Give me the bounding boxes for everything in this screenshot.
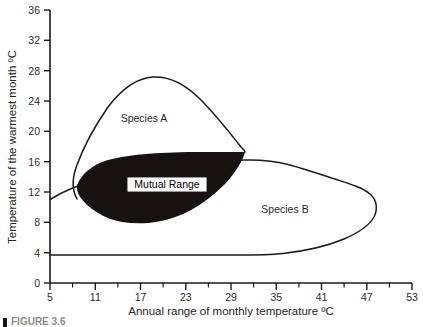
species-a-label: Species A — [121, 112, 168, 124]
y-tick-label: 4 — [34, 247, 40, 259]
y-tick-label: 20 — [28, 125, 40, 137]
figure-container: 0 4 8 12 16 20 24 28 32 36 5 11 17 23 29… — [0, 0, 423, 327]
y-tick-label: 0 — [34, 277, 40, 289]
x-tick-label: 53 — [406, 291, 418, 303]
x-tick-label: 41 — [316, 291, 328, 303]
x-tick-labels: 5 11 17 23 29 35 41 47 53 — [47, 291, 418, 303]
mutual-range-callout: Mutual Range — [127, 177, 207, 192]
x-tick-label: 5 — [47, 291, 53, 303]
figure-caption-text: FIGURE 3.6 — [11, 316, 65, 327]
x-tick-label: 47 — [361, 291, 373, 303]
species-b-label: Species B — [261, 203, 308, 215]
y-tick-label: 24 — [28, 95, 40, 107]
y-axis-title: Temperature of the warmest month ºC — [6, 50, 18, 244]
figure-caption-strip: FIGURE 3.6 — [0, 316, 423, 327]
y-tick-label: 28 — [28, 65, 40, 77]
y-tick-label: 32 — [28, 34, 40, 46]
y-tick-labels: 0 4 8 12 16 20 24 28 32 36 — [28, 4, 40, 289]
y-tick-label: 12 — [28, 186, 40, 198]
x-tick-label: 23 — [180, 291, 192, 303]
x-axis — [50, 283, 412, 290]
x-tick-label: 35 — [270, 291, 282, 303]
y-tick-label: 8 — [34, 216, 40, 228]
y-tick-label: 16 — [28, 156, 40, 168]
x-tick-label: 17 — [135, 291, 147, 303]
y-tick-label: 36 — [28, 4, 40, 16]
x-tick-label: 11 — [90, 291, 101, 303]
caption-marker-icon — [3, 318, 7, 327]
plot-background — [50, 10, 412, 283]
mutual-range-label: Mutual Range — [134, 178, 200, 190]
chart-canvas: 0 4 8 12 16 20 24 28 32 36 5 11 17 23 29… — [0, 0, 423, 327]
x-tick-label: 29 — [225, 291, 237, 303]
y-axis — [44, 10, 50, 283]
